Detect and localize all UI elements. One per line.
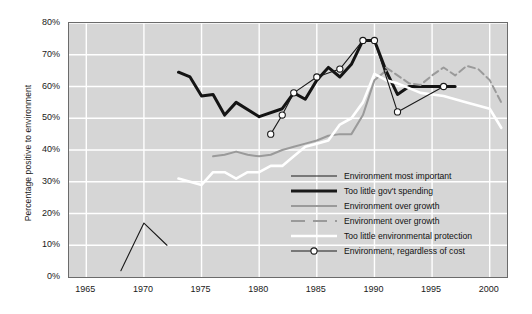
legend-swatch [290, 170, 338, 182]
y-axis-tick-label: 70% [26, 49, 60, 59]
x-axis-tick-label: 1975 [171, 284, 231, 294]
series-line [213, 71, 386, 157]
series-marker [360, 37, 366, 43]
legend-label: Environment over growth [344, 201, 440, 211]
x-axis-tick-label: 1990 [343, 284, 403, 294]
legend-swatch [290, 215, 338, 227]
x-axis-tick-label: 1965 [55, 284, 115, 294]
series-marker [394, 109, 400, 115]
legend-item: Environment over growth [290, 198, 472, 213]
series-marker [337, 66, 343, 72]
y-axis-tick-label: 30% [26, 176, 60, 186]
legend-swatch [290, 245, 338, 257]
chart-container: Percentage positive to environment 0%10%… [0, 0, 532, 314]
legend-swatch [290, 185, 338, 197]
series-marker [279, 112, 285, 118]
legend-label: Too little environmental protection [344, 231, 472, 241]
x-axis-tick-label: 1980 [228, 284, 288, 294]
series-marker [291, 90, 297, 96]
legend-item: Environment over growth [290, 213, 472, 228]
x-axis-tick-label: 1985 [286, 284, 346, 294]
y-axis-tick-label: 0% [26, 271, 60, 281]
legend-swatch [290, 200, 338, 212]
legend-item: Too little gov't spending [290, 183, 472, 198]
y-axis-tick-label: 20% [26, 208, 60, 218]
series-marker [314, 74, 320, 80]
legend-label: Environment most important [344, 171, 451, 181]
legend-item: Too little environmental protection [290, 228, 472, 243]
legend-swatch [290, 230, 338, 242]
y-axis-tick-label: 60% [26, 81, 60, 91]
y-axis-tick-label: 10% [26, 239, 60, 249]
legend-item: Environment, regardless of cost [290, 243, 472, 258]
x-axis-tick-label: 2000 [459, 284, 519, 294]
y-axis-tick-label: 40% [26, 144, 60, 154]
legend-label: Too little gov't spending [344, 186, 433, 196]
x-axis-tick-label: 1995 [401, 284, 461, 294]
legend-item: Environment most important [290, 168, 472, 183]
y-axis-tick-label: 80% [26, 17, 60, 27]
chart-legend: Environment most importantToo little gov… [290, 168, 472, 258]
legend-label: Environment over growth [344, 216, 440, 226]
series-marker [268, 131, 274, 137]
y-axis-tick-label: 50% [26, 112, 60, 122]
legend-label: Environment, regardless of cost [344, 246, 465, 256]
series-marker [371, 37, 377, 43]
y-axis-tick-group: 0%10%20%30%40%50%60%70%80% [26, 0, 60, 314]
series-marker [441, 83, 447, 89]
x-axis-tick-label: 1970 [113, 284, 173, 294]
